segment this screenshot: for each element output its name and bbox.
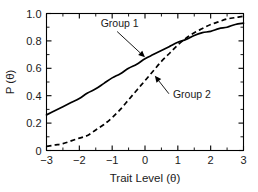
y-tick-label: 0.8 <box>26 35 41 47</box>
x-tick-label: −3 <box>40 154 53 166</box>
y-tick-label: 0.2 <box>26 117 41 129</box>
annotation-label-group-1: Group 1 <box>101 17 139 29</box>
y-tick-label: 0.6 <box>26 62 41 74</box>
x-tick-label: −2 <box>73 154 86 166</box>
y-tick-label: 1.0 <box>26 8 41 20</box>
y-tick-label: 0 <box>35 145 41 157</box>
y-axis-title: P (θ) <box>4 69 16 94</box>
x-tick-label: 0 <box>142 154 148 166</box>
annotation-label-group-2: Group 2 <box>173 88 211 100</box>
x-tick-label: 1 <box>175 154 181 166</box>
icc-chart-svg: −3−2−10123 00.20.40.60.81.0 Group 1 Grou… <box>0 0 258 192</box>
chart-figure: −3−2−10123 00.20.40.60.81.0 Group 1 Grou… <box>0 0 258 192</box>
y-tick-label: 0.4 <box>26 90 41 102</box>
x-tick-label: −1 <box>106 154 119 166</box>
x-axis-title: Trait Level (θ) <box>110 172 181 184</box>
x-tick-label: 2 <box>208 154 214 166</box>
x-tick-label: 3 <box>240 154 246 166</box>
